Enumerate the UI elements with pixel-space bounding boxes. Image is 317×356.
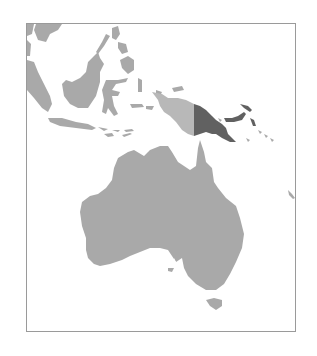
sumatra-north bbox=[27, 40, 31, 56]
australia bbox=[80, 140, 244, 290]
lesser-sunda-islands bbox=[98, 127, 134, 137]
birds-head-island bbox=[172, 86, 184, 92]
western-new-guinea bbox=[152, 92, 194, 136]
java bbox=[48, 118, 96, 130]
malay-peninsula bbox=[34, 24, 62, 42]
sumatra bbox=[27, 60, 52, 112]
sulawesi bbox=[102, 78, 128, 116]
new-britain bbox=[224, 112, 246, 122]
mainland-asia-topleft bbox=[27, 24, 34, 36]
borneo bbox=[62, 52, 104, 108]
papua-new-guinea bbox=[194, 104, 236, 142]
tasmania bbox=[206, 298, 222, 310]
new-caledonia bbox=[288, 190, 295, 199]
location-map bbox=[0, 0, 317, 356]
